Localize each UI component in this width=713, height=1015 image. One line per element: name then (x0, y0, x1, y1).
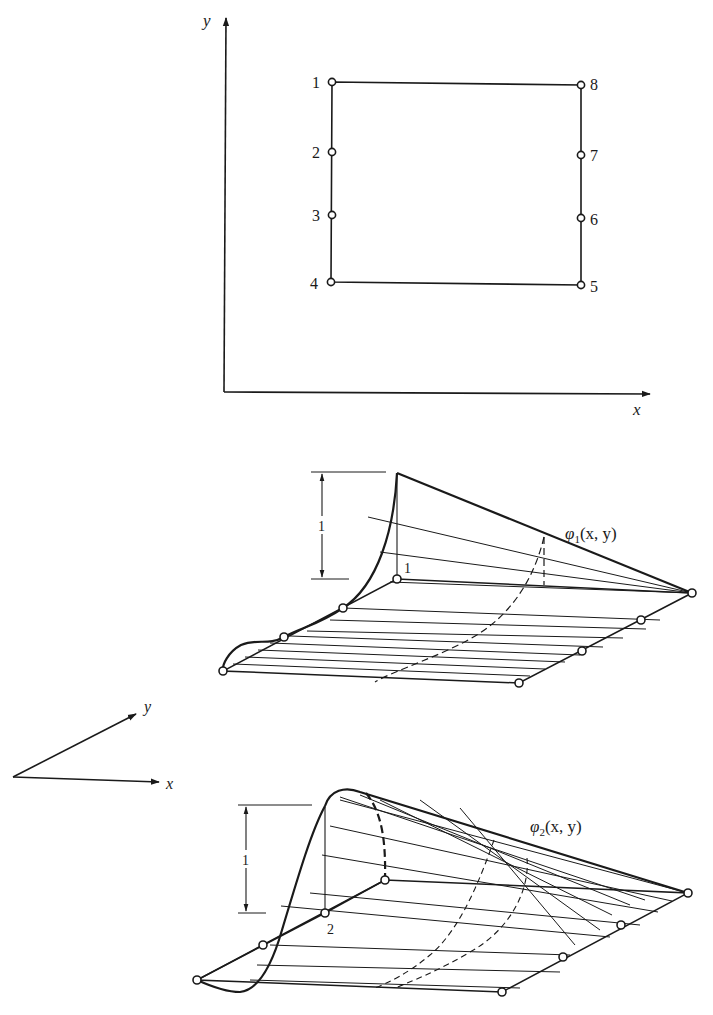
node-label-6: 6 (590, 211, 598, 228)
node-8 (577, 81, 584, 88)
surface2-node-label: 2 (327, 922, 334, 937)
surface1-node-label: 1 (404, 561, 411, 576)
node-label-3: 3 (312, 207, 320, 224)
perspective-y-axis (13, 714, 136, 777)
perspective-y-label: y (142, 698, 152, 716)
node-7 (577, 151, 584, 158)
node-label-1: 1 (312, 74, 320, 91)
node-2 (328, 148, 335, 155)
surface-lines-1 (233, 517, 692, 676)
surface-phi1: 1 (219, 472, 696, 687)
height-label-2: 1 (242, 853, 249, 868)
base-outline-1 (223, 579, 692, 683)
node-1 (328, 78, 335, 85)
perspective-axes: y x (13, 698, 173, 792)
y-axis (224, 18, 226, 392)
node-label-2: 2 (312, 144, 320, 161)
element-boundary (331, 82, 581, 285)
node-4 (327, 278, 334, 285)
surface-phi2: 1 (193, 789, 692, 996)
node-markers (327, 78, 584, 288)
x-axis-label: x (632, 400, 641, 419)
height-label-1: 1 (318, 519, 325, 534)
node-3 (328, 211, 335, 218)
node-5 (577, 281, 584, 288)
perspective-x-axis (13, 777, 159, 782)
top-panel: y x 1 2 3 4 5 6 7 8 (201, 11, 650, 419)
phi1-label: φ1(x, y) (565, 524, 617, 545)
y-axis-label: y (201, 11, 211, 30)
diagram-canvas: y x 1 2 3 4 5 6 7 8 y (0, 0, 713, 1015)
x-axis (224, 392, 650, 394)
base-outline-2 (197, 880, 688, 992)
perspective-x-label: x (165, 775, 173, 792)
node-label-4: 4 (310, 275, 318, 292)
node-label-5: 5 (590, 278, 598, 295)
phi2-label: φ2(x, y) (530, 817, 582, 838)
node-6 (577, 214, 584, 221)
node-label-8: 8 (590, 76, 598, 93)
node-label-7: 7 (590, 147, 598, 164)
diagram-stage: y x 1 2 3 4 5 6 7 8 y (0, 0, 713, 1015)
